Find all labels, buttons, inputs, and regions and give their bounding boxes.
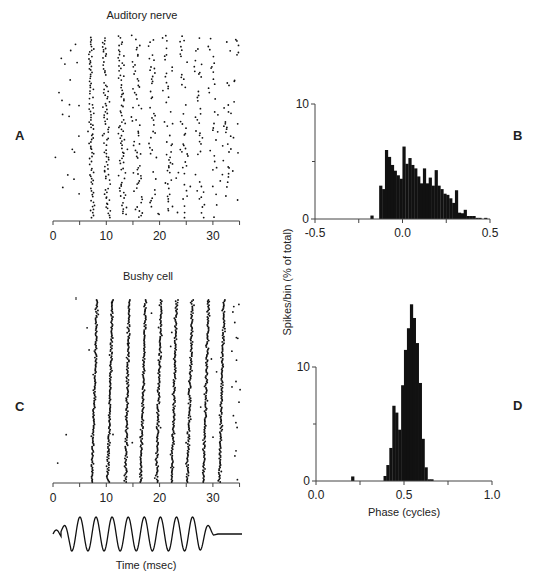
panel-a-title: Auditory nerve (107, 9, 178, 21)
histogram-bar (432, 186, 435, 219)
histogram-bar (402, 147, 405, 219)
x-tick-label: 10 (100, 229, 114, 243)
histogram-bar (389, 448, 392, 481)
histogram-bar (416, 343, 419, 481)
histogram-bar (452, 203, 455, 219)
histogram-bar (386, 465, 389, 481)
histogram-bar (398, 430, 401, 481)
histogram-bar (435, 170, 438, 219)
figure-canvas: A B C D Auditory nerve Bushy cell Spikes… (0, 0, 538, 585)
histogram-bar (464, 210, 467, 219)
x-tick-label: 0.0 (394, 226, 411, 240)
x-tick-label: -0.5 (305, 226, 326, 240)
y-tick-label: 10 (297, 360, 311, 374)
histogram-bar (425, 467, 428, 481)
histogram-bar (422, 439, 425, 481)
histogram-bar (379, 186, 382, 219)
histogram-bar (426, 183, 429, 219)
histogram-bar (382, 189, 385, 219)
histogram-bar (385, 150, 388, 219)
raster-plot-bushy-cell: 0102030 (50, 297, 241, 505)
x-axis-label-time: Time (msec) (116, 559, 177, 571)
tone-burst-line (53, 517, 242, 551)
histogram-bar (443, 194, 446, 219)
histogram-bar (404, 350, 407, 481)
y-tick-label: 10 (296, 97, 310, 111)
histogram-auditory-nerve-phase: 010-0.50.00.5 (296, 97, 499, 240)
histogram-bar (419, 383, 422, 481)
panel-c-title: Bushy cell (123, 270, 173, 282)
x-tick-label: 20 (153, 491, 167, 505)
histogram-bar (423, 168, 426, 219)
x-tick-label: 0.0 (308, 488, 325, 502)
histogram-bar (394, 171, 397, 219)
histogram-bar (458, 213, 461, 219)
histogram-bar (388, 157, 391, 219)
histogram-bar (405, 164, 408, 219)
histogram-bar (401, 385, 404, 481)
histogram-bar (417, 176, 420, 219)
histogram-bar (408, 158, 411, 219)
x-tick-label: 0.5 (482, 226, 499, 240)
histogram-bar (370, 216, 373, 219)
panel-letter-c: C (15, 399, 25, 414)
histogram-bar (449, 198, 452, 219)
x-tick-label: 0.5 (396, 488, 413, 502)
panel-letter-b: B (513, 128, 522, 143)
histogram-bar (384, 476, 387, 481)
histogram-bushy-cell-phase: 0100.00.51.0 (297, 304, 501, 502)
histogram-bar (395, 413, 398, 481)
histogram-bar (429, 178, 432, 219)
x-axis-label-phase: Phase (cycles) (368, 506, 440, 518)
x-tick-label: 30 (206, 229, 220, 243)
histogram-bar (407, 328, 410, 481)
histogram-bar (414, 168, 417, 219)
y-tick-label: 0 (303, 474, 310, 488)
x-tick-label: 30 (206, 491, 220, 505)
histogram-bar (455, 190, 458, 219)
histogram-bar (413, 318, 416, 481)
histogram-bar (461, 213, 464, 219)
stimulus-waveform (53, 517, 242, 551)
x-tick-label: 1.0 (484, 488, 501, 502)
histogram-bar (411, 165, 414, 219)
histogram-bar (440, 189, 443, 219)
histogram-bar (391, 165, 394, 219)
y-tick-label: 0 (302, 212, 309, 226)
x-tick-label: 10 (100, 491, 114, 505)
histogram-bar (400, 179, 403, 219)
histogram-bar (351, 476, 354, 481)
histogram-bar (446, 195, 449, 219)
panel-letter-d: D (513, 398, 522, 413)
histogram-bar (392, 406, 395, 481)
histogram-bar (397, 175, 400, 219)
histogram-bar (420, 183, 423, 219)
x-tick-label: 0 (50, 491, 57, 505)
y-axis-label: Spikes/bin (% of total) (281, 229, 293, 336)
panel-letter-a: A (15, 128, 25, 143)
histogram-bar (437, 186, 440, 219)
x-tick-label: 20 (153, 229, 167, 243)
raster-plot-auditory-nerve: 0102030 (50, 34, 240, 243)
x-tick-label: 0 (50, 229, 57, 243)
histogram-bar (410, 304, 413, 481)
